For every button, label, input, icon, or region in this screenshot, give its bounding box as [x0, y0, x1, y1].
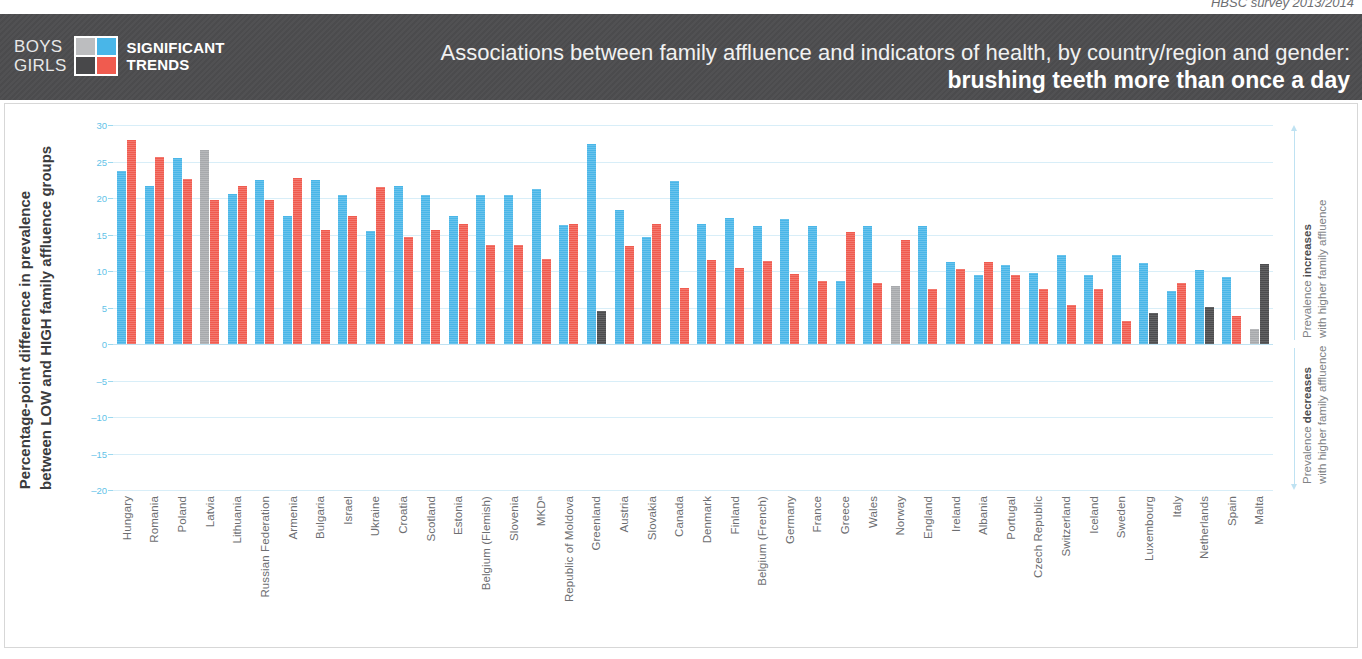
x-axis-label: France — [804, 496, 832, 646]
bar-group — [804, 125, 832, 490]
x-axis-label: Slovenia — [500, 496, 528, 646]
bar-boys — [283, 216, 292, 344]
bar-girls — [846, 232, 855, 344]
bar-girls — [652, 224, 661, 344]
bar-girls — [486, 245, 495, 344]
bar-girls — [1232, 316, 1241, 344]
bar-group — [914, 125, 942, 490]
x-axis-label-text: Armenia — [287, 496, 299, 540]
x-axis-label-text: Germany — [784, 496, 796, 544]
bar-girls — [928, 289, 937, 344]
bar-group — [610, 125, 638, 490]
x-axis-label: Bulgaria — [306, 496, 334, 646]
x-axis-label: Greece — [831, 496, 859, 646]
x-axis-label-text: Finland — [729, 496, 741, 534]
x-axis-label: Canada — [666, 496, 694, 646]
bar-girls — [597, 311, 606, 344]
x-axis-label-text: Slovakia — [646, 496, 658, 540]
x-axis-label: Ukraine — [362, 496, 390, 646]
legend-girls-label: GIRLS — [14, 56, 67, 75]
x-axis-label: Armenia — [279, 496, 307, 646]
x-axis-label: Hungary — [113, 496, 141, 646]
x-axis-label: Sweden — [1108, 496, 1136, 646]
bar-boys — [394, 186, 403, 344]
bar-group — [389, 125, 417, 490]
increase-axis-line — [1294, 131, 1295, 340]
bar-group — [196, 125, 224, 490]
bar-group — [1135, 125, 1163, 490]
survey-note: HBSC survey 2013/2014 — [0, 0, 1362, 14]
x-axis-label-text: Belgium (Flemish) — [480, 496, 492, 590]
x-axis-label-text: Albania — [977, 496, 989, 535]
x-axis-label-text: France — [811, 496, 823, 532]
bar-boys — [559, 225, 568, 344]
bar-girls — [459, 224, 468, 344]
x-axis-label-text: Austria — [618, 496, 630, 533]
bar-boys — [1222, 277, 1231, 344]
prevalence-decreases-label: Prevalence decreases with higher family … — [1300, 234, 1330, 484]
x-axis-label: Malta — [1246, 496, 1274, 646]
bar-girls — [238, 186, 247, 344]
legend-boys-label: BOYS — [14, 37, 67, 56]
decrease-axis-line — [1294, 348, 1295, 484]
bar-boys — [615, 210, 624, 344]
bar-boys — [311, 180, 320, 344]
bar-boys — [808, 226, 817, 344]
legend: BOYS GIRLS SIGNIFICANT TRENDS — [14, 36, 225, 76]
legend-significant-line1: SIGNIFICANT — [127, 39, 225, 56]
arrow-down-icon — [1291, 484, 1297, 490]
x-axis-label-text: Scotland — [425, 496, 437, 542]
bar-girls — [763, 261, 772, 344]
bar-group — [638, 125, 666, 490]
x-axis-label: Norway — [887, 496, 915, 646]
bar-girls — [984, 262, 993, 344]
bar-group — [251, 125, 279, 490]
y-tick-label: 10 — [96, 266, 107, 277]
x-axis-label: Czech Republic — [1025, 496, 1053, 646]
bar-group — [1108, 125, 1136, 490]
x-axis-label: Wales — [859, 496, 887, 646]
bar-boys — [780, 219, 789, 344]
bar-group — [306, 125, 334, 490]
bar-girls — [1205, 307, 1214, 344]
x-axis-label-text: Estonia — [452, 496, 464, 535]
x-axis-label-text: Canada — [673, 496, 685, 537]
bar-group — [555, 125, 583, 490]
bar-girls — [1067, 305, 1076, 344]
bar-group — [224, 125, 252, 490]
bar-boys — [532, 189, 541, 344]
bar-boys — [918, 226, 927, 344]
x-axis-label-text: Romania — [148, 496, 160, 543]
x-axis-label-text: Belgium (French) — [756, 496, 768, 586]
bar-boys — [1057, 255, 1066, 344]
bar-group — [776, 125, 804, 490]
y-tick-label: 5 — [102, 302, 107, 313]
x-axis-label-text: Iceland — [1088, 496, 1100, 534]
bar-group — [969, 125, 997, 490]
x-axis-label-text: Portugal — [1005, 496, 1017, 540]
bar-girls — [542, 259, 551, 344]
bar-group — [666, 125, 694, 490]
bar-boys — [1167, 291, 1176, 344]
bar-girls — [155, 157, 164, 344]
bar-group — [334, 125, 362, 490]
bar-group — [279, 125, 307, 490]
bar-girls — [873, 283, 882, 344]
bar-boys — [642, 237, 651, 344]
swatch-boys-significant — [97, 38, 116, 55]
x-axis-label: MKDᵃ — [527, 496, 555, 646]
chart-page: HBSC survey 2013/2014 BOYS GIRLS SIGNIFI… — [0, 0, 1362, 659]
plot-area: 302520151050–5–10–15–20 — [113, 125, 1273, 490]
x-axis-label: Portugal — [997, 496, 1025, 646]
bar-group — [417, 125, 445, 490]
y-tick-label: 20 — [96, 193, 107, 204]
x-axis-label-text: Russian Federation — [259, 496, 271, 598]
x-axis-label: Poland — [168, 496, 196, 646]
x-axis-label: Estonia — [445, 496, 473, 646]
y-tick-label: –20 — [91, 485, 107, 496]
y-axis-caption-line1: Percentage-point difference in prevalenc… — [14, 190, 35, 490]
bar-boys — [1029, 273, 1038, 344]
bar-group — [527, 125, 555, 490]
bar-boys — [946, 262, 955, 344]
x-axis-label-text: Greece — [839, 496, 851, 534]
